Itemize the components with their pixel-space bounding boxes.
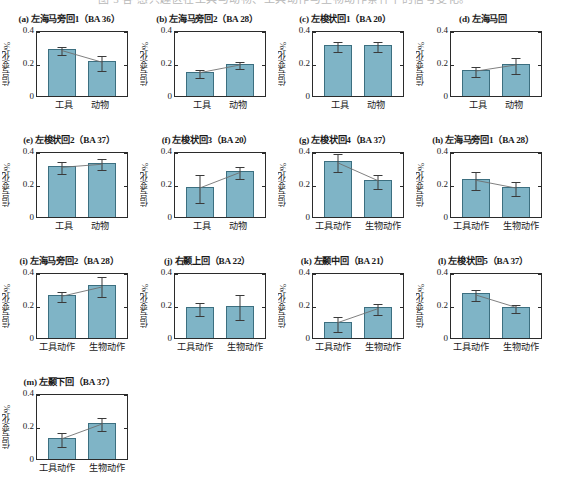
error-bar-cap xyxy=(235,295,244,296)
x-tick-labels: 工具动作生物动作 xyxy=(440,341,552,353)
y-tick-label: 0.2 xyxy=(23,59,34,68)
x-tick-label: 生物动作 xyxy=(365,341,401,353)
error-bar-cap xyxy=(472,77,481,78)
bar-series xyxy=(451,32,541,96)
bar-series xyxy=(175,153,265,217)
y-tick-labels: 0.40.20 xyxy=(150,148,172,222)
y-tick-label: 0.4 xyxy=(437,268,448,277)
error-bar-cap xyxy=(511,58,520,59)
x-tick-labels: 工具动物 xyxy=(174,99,266,111)
x-tick-label: 工具动作 xyxy=(39,462,75,474)
bar-slot xyxy=(226,153,254,217)
bar-series xyxy=(37,153,127,217)
error-bar-cap xyxy=(373,52,382,53)
y-tick-label: 0 xyxy=(168,213,173,222)
y-tick-labels: 0.40.20 xyxy=(150,269,172,343)
plot-area xyxy=(312,31,404,97)
x-tick-label: 动物 xyxy=(229,220,247,232)
y-tick-label: 0.4 xyxy=(23,147,34,156)
bar-series xyxy=(451,153,541,217)
y-tick-label: 0.4 xyxy=(23,26,34,35)
figure-caption-text: 图 3 各 感兴趣区在工具与动物、工具动作与生物动作条件下的信号变化。 xyxy=(98,0,470,5)
chart-panel-e: (e) 左梭状回2（BA 37）信号变化/%0.40.20工具动物 xyxy=(0,134,138,255)
x-tick-label: 工具动作 xyxy=(453,341,489,353)
y-tick-label: 0.4 xyxy=(299,26,310,35)
y-tick-labels: 0.40.20 xyxy=(12,390,34,464)
bar-slot xyxy=(88,274,116,338)
x-tick-labels: 工具动物 xyxy=(312,99,404,111)
panel-title: (c) 左梭状回1（BA 20） xyxy=(276,13,414,25)
bar-slot xyxy=(226,274,254,338)
x-tick-label: 生物动作 xyxy=(89,341,125,353)
error-bar xyxy=(62,47,63,55)
chart-panel-a: (a) 左海马旁回1（BA 36）信号变化/%0.40.20工具动物 xyxy=(0,13,138,134)
error-bar xyxy=(515,182,516,196)
error-bar xyxy=(239,62,240,69)
error-bar-cap xyxy=(235,179,244,180)
bar-slot xyxy=(364,274,392,338)
error-bar xyxy=(338,317,339,332)
y-tick-label: 0.2 xyxy=(23,301,34,310)
x-tick-labels: 工具动物 xyxy=(174,220,266,232)
error-bar-cap xyxy=(334,52,343,53)
y-tick-labels: 0.40.20 xyxy=(150,27,172,101)
y-tick-label: 0.4 xyxy=(23,389,34,398)
error-bar-cap xyxy=(97,431,106,432)
y-tick-labels: 0.40.20 xyxy=(426,27,448,101)
error-bar-cap xyxy=(334,332,343,333)
axes-area: 信号变化/%0.40.20工具动物 xyxy=(276,27,414,134)
axes-area: 信号变化/%0.40.20工具动物 xyxy=(138,27,276,134)
y-tick-label: 0.2 xyxy=(23,422,34,431)
error-bar-cap xyxy=(511,313,520,314)
error-bar xyxy=(62,433,63,447)
chart-panel-c: (c) 左梭状回1（BA 20）信号变化/%0.40.20工具动物 xyxy=(276,13,414,134)
y-tick-label: 0.4 xyxy=(161,147,172,156)
axes-area: 信号变化/%0.40.20工具动作生物动作 xyxy=(276,148,414,255)
error-bar xyxy=(239,295,240,320)
x-tick-label: 生物动作 xyxy=(227,341,263,353)
error-bar-cap xyxy=(334,42,343,43)
plot-area xyxy=(450,31,542,97)
error-bar-cap xyxy=(334,172,343,173)
x-tick-labels: 工具动作生物动作 xyxy=(164,341,276,353)
bar-series xyxy=(175,32,265,96)
y-tick-label: 0.4 xyxy=(437,147,448,156)
axes-area: 信号变化/%0.40.20工具动物 xyxy=(138,148,276,255)
y-tick-label: 0.2 xyxy=(161,301,172,310)
panel-title: (e) 左梭状回2（BA 37） xyxy=(0,134,138,146)
chart-panel-l: (l) 左梭状回5（BA 37）信号变化/%0.40.20工具动作生物动作 xyxy=(414,255,552,376)
bar-series xyxy=(313,274,403,338)
chart-panel-g: (g) 左梭状回4（BA 37）信号变化/%0.40.20工具动作生物动作 xyxy=(276,134,414,255)
x-tick-label: 工具 xyxy=(469,99,487,111)
error-bar xyxy=(62,162,63,174)
axes-area: 信号变化/%0.40.20工具动作生物动作 xyxy=(276,269,414,376)
chart-panel-k: (k) 左颞中回（BA 21）信号变化/%0.40.20工具动作生物动作 xyxy=(276,255,414,376)
error-bar xyxy=(239,167,240,180)
bar-series xyxy=(451,274,541,338)
plot-area xyxy=(312,152,404,218)
error-bar-cap xyxy=(235,69,244,70)
panel-title: (g) 左梭状回4（BA 37） xyxy=(276,134,414,146)
x-tick-label: 生物动作 xyxy=(503,220,539,232)
error-bar-cap xyxy=(334,317,343,318)
error-bar-cap xyxy=(235,62,244,63)
panel-title: (k) 左颞中回（BA 21） xyxy=(276,255,414,267)
y-tick-label: 0 xyxy=(168,92,173,101)
error-bar-cap xyxy=(373,304,382,305)
bar-slot xyxy=(88,32,116,96)
error-bar xyxy=(200,175,201,203)
figure-caption-strip: 图 3 各 感兴趣区在工具与动物、工具动作与生物动作条件下的信号变化。 xyxy=(0,0,569,13)
error-bar xyxy=(62,292,63,301)
x-tick-label: 动物 xyxy=(91,220,109,232)
error-bar-cap xyxy=(97,159,106,160)
x-tick-labels: 工具动物 xyxy=(450,99,542,111)
x-tick-labels: 工具动物 xyxy=(36,220,128,232)
error-bar-cap xyxy=(97,297,106,298)
error-bar xyxy=(101,159,102,170)
x-tick-labels: 工具动作生物动作 xyxy=(302,341,414,353)
error-bar-cap xyxy=(97,170,106,171)
y-tick-labels: 0.40.20 xyxy=(426,148,448,222)
error-bar-cap xyxy=(373,315,382,316)
bar-series xyxy=(175,274,265,338)
y-tick-label: 0.4 xyxy=(161,268,172,277)
